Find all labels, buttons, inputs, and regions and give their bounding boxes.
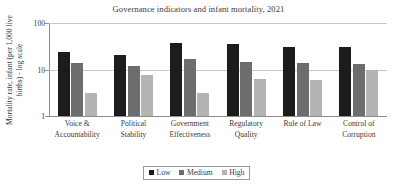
chart-legend: LowMediumHigh [143, 166, 250, 180]
bar-high [197, 93, 209, 116]
legend-swatch-icon [222, 170, 227, 175]
legend-swatch-icon [179, 170, 184, 175]
x-axis-category-label-line: Stability [105, 130, 161, 141]
y-axis-tick [45, 23, 49, 24]
bar-high [310, 80, 322, 116]
bar-low [170, 43, 182, 116]
y-axis-title-line-1: Mortality rate, infant (per 1,000 live [5, 5, 15, 135]
x-axis-category-label: GovernmentEffectiveness [162, 119, 218, 140]
x-axis-category-label-line: Effectiveness [162, 130, 218, 141]
legend-item-label: High [229, 168, 244, 177]
x-axis-category-label-line: Voice & [49, 119, 105, 130]
bar-medium [240, 62, 252, 116]
bar-group [58, 23, 97, 116]
bar-high [254, 79, 266, 116]
legend-item-high[interactable]: High [222, 168, 245, 177]
gridline [49, 23, 387, 24]
bar-group [227, 23, 266, 116]
bar-low [227, 44, 239, 116]
legend-swatch-icon [149, 170, 154, 175]
bar-medium [297, 63, 309, 116]
x-axis-category-label: RegulatoryQuality [218, 119, 274, 140]
x-axis-tick-labels: Voice &AccountabilityPoliticalStabilityG… [49, 119, 387, 145]
legend-item-medium[interactable]: Medium [179, 168, 212, 177]
x-axis-category-label: Control ofCorruption [331, 119, 387, 140]
x-axis-category-label-line: Political [105, 119, 161, 130]
y-axis-tick-labels: 100101 [21, 23, 45, 117]
bar-low [58, 52, 70, 116]
y-axis-tick-label: 1 [21, 112, 45, 121]
bar-group [114, 23, 153, 116]
bar-high [85, 93, 97, 116]
bar-low [114, 55, 126, 116]
x-axis-category-label-line: Government [162, 119, 218, 130]
y-axis-tick [45, 70, 49, 71]
y-axis-tick [45, 116, 49, 117]
x-axis-line [49, 116, 387, 117]
x-axis-category-label: PoliticalStability [105, 119, 161, 140]
x-axis-category-label: Voice &Accountability [49, 119, 105, 140]
bar-medium [353, 64, 365, 116]
x-axis-category-label-line: Corruption [331, 130, 387, 141]
bar-medium [128, 66, 140, 116]
bar-group [339, 23, 378, 116]
x-axis-category-label-line: Quality [218, 130, 274, 141]
plot-area [49, 23, 387, 117]
y-axis-tick-label: 10 [21, 65, 45, 74]
x-axis-category-label-line: Rule of Law [274, 119, 330, 130]
bar-group [283, 23, 322, 116]
legend-item-label: Medium [187, 168, 213, 177]
legend-item-low[interactable]: Low [149, 168, 170, 177]
gridline [49, 70, 387, 71]
x-axis-category-label-line: Control of [331, 119, 387, 130]
bar-group [170, 23, 209, 116]
bar-low [283, 47, 295, 116]
bar-medium [184, 59, 196, 116]
x-axis-category-label-line: Accountability [49, 130, 105, 141]
legend-item-label: Low [157, 168, 171, 177]
bar-high [366, 70, 378, 116]
x-axis-category-label: Rule of Law [274, 119, 330, 130]
bar-medium [71, 63, 83, 116]
chart-figure: Governance indicators and infant mortali… [0, 0, 397, 194]
bar-low [339, 47, 351, 116]
chart-title: Governance indicators and infant mortali… [0, 4, 397, 14]
y-axis-tick-label: 100 [21, 19, 45, 28]
x-axis-category-label-line: Regulatory [218, 119, 274, 130]
bar-high [141, 75, 153, 116]
